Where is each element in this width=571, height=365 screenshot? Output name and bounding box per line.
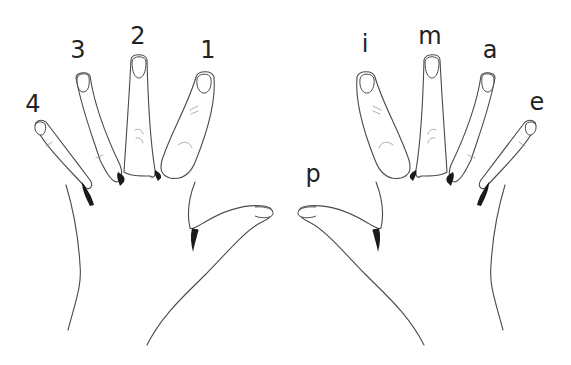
label-right-middle: m [418,24,441,48]
label-right-index: i [362,32,369,56]
label-right-thumb: p [305,162,320,186]
finger-diagram: 4 3 2 1 p i m a e [0,0,571,365]
label-left-pinky: 4 [25,92,40,116]
label-right-pinky: e [530,90,545,114]
left-hand-drawing [35,55,273,345]
label-left-index: 1 [200,38,215,62]
right-hand-drawing [298,55,536,345]
label-left-ring: 3 [70,38,85,62]
label-right-ring: a [483,38,498,62]
label-left-middle: 2 [130,24,145,48]
